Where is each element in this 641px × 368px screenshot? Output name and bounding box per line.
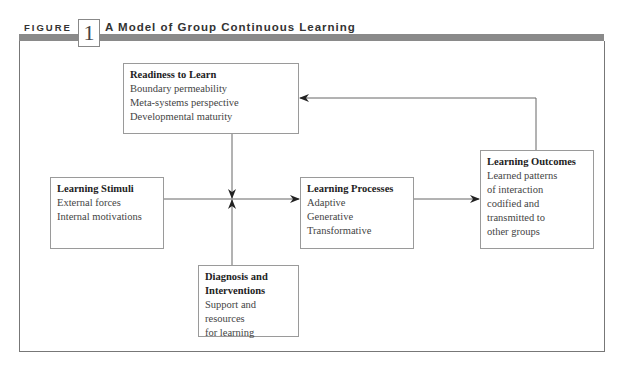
outcomes-title: Learning Outcomes <box>487 155 587 169</box>
outcomes-line: codified and <box>487 197 587 211</box>
readiness-line: Developmental maturity <box>130 110 292 124</box>
processes-title: Learning Processes <box>307 182 407 196</box>
processes-line: Generative <box>307 210 407 224</box>
diagnosis-line: Support and resources <box>205 298 292 326</box>
outcomes-line: of interaction <box>487 183 587 197</box>
readiness-line: Boundary permeability <box>130 82 292 96</box>
outcomes-box: Learning Outcomes Learned patterns of in… <box>480 150 594 249</box>
diagnosis-box: Diagnosis and Interventions Support and … <box>198 265 299 337</box>
outcomes-line: other groups <box>487 225 587 239</box>
stimuli-line: External forces <box>57 196 157 210</box>
diagnosis-line: for learning <box>205 326 292 340</box>
figure-number: 1 <box>78 19 100 47</box>
diagnosis-title: Interventions <box>205 284 292 298</box>
outcomes-line: transmitted to <box>487 211 587 225</box>
processes-box: Learning Processes Adaptive Generative T… <box>300 177 414 249</box>
outcomes-line: Learned patterns <box>487 169 587 183</box>
processes-line: Transformative <box>307 224 407 238</box>
readiness-box: Readiness to Learn Boundary permeability… <box>123 63 299 134</box>
readiness-line: Meta-systems perspective <box>130 96 292 110</box>
diagnosis-title: Diagnosis and <box>205 270 292 284</box>
processes-line: Adaptive <box>307 196 407 210</box>
readiness-title: Readiness to Learn <box>130 68 292 82</box>
stimuli-title: Learning Stimuli <box>57 182 157 196</box>
arrow-outcomes-feedback <box>300 98 536 150</box>
stimuli-box: Learning Stimuli External forces Interna… <box>50 177 164 249</box>
stimuli-line: Internal motivations <box>57 210 157 224</box>
